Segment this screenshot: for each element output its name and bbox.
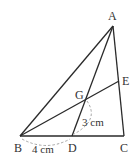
label-e: E bbox=[122, 74, 129, 88]
label-c: C bbox=[120, 141, 128, 155]
label-g: G bbox=[75, 88, 84, 102]
median-be bbox=[20, 81, 119, 136]
triangle-diagram: A B C D E G 4 cm 3 cm bbox=[0, 0, 138, 161]
measurement-bd: 4 cm bbox=[32, 143, 54, 155]
label-a: A bbox=[108, 9, 117, 23]
label-d: D bbox=[68, 141, 77, 155]
measurement-gd: 3 cm bbox=[82, 116, 104, 128]
label-b: B bbox=[14, 141, 22, 155]
